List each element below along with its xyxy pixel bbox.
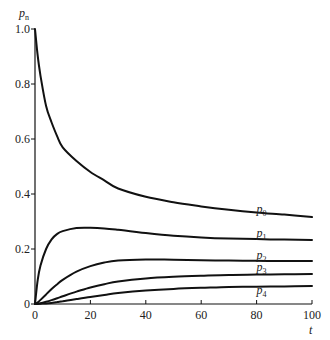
x-tick-label: 0 [32, 308, 38, 322]
x-tick-label: 60 [195, 308, 207, 322]
y-tick-label: 1.0 [15, 22, 30, 36]
x-tick-label: 100 [303, 308, 321, 322]
series-curves [35, 29, 312, 304]
x-tick-label: 20 [84, 308, 96, 322]
series-p0-line [35, 29, 312, 217]
line-chart: 02040608010000.20.40.60.81.0 p0p1p2p3p4 … [0, 0, 330, 340]
y-tick-label: 0 [24, 297, 30, 311]
series-p4-line [35, 286, 312, 304]
y-tick-label: 0.2 [15, 242, 30, 256]
series-p1-label: p1 [256, 226, 267, 242]
y-tick-label: 0.4 [15, 187, 30, 201]
series-p2-line [35, 259, 312, 304]
y-tick-label: 0.8 [15, 77, 30, 91]
x-tick-label: 80 [251, 308, 263, 322]
y-tick-label: 0.6 [15, 132, 30, 146]
series-p0-label: p0 [256, 202, 267, 218]
x-axis-label: t [309, 323, 313, 337]
y-axis-label: pn [18, 6, 29, 22]
series-labels: p0p1p2p3p4 [256, 202, 267, 299]
x-tick-label: 40 [140, 308, 152, 322]
